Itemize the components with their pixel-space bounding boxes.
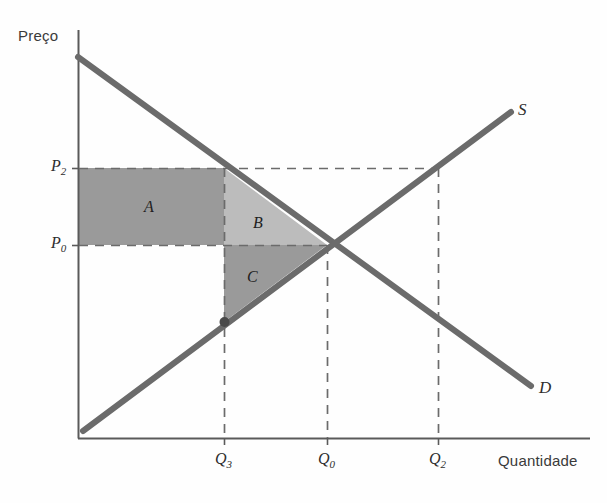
x-axis-title: Quantidade: [498, 452, 578, 469]
chart-canvas: [0, 0, 607, 503]
x-tick-label-q3-base: Q: [215, 450, 227, 467]
region-c-shape: [224, 245, 327, 322]
region-a-label: A: [144, 198, 154, 216]
x-tick-label-q0: Q0: [318, 450, 335, 470]
y-tick-label-p0: P0: [51, 234, 66, 254]
demand-curve-label: D: [539, 378, 551, 398]
region-b-label: B: [253, 214, 263, 232]
x-tick-label-q3-sub: 3: [227, 458, 233, 470]
y-tick-label-p0-sub: 0: [61, 242, 67, 254]
x-tick-label-q2-base: Q: [429, 450, 441, 467]
y-tick-label-p2-base: P: [51, 157, 61, 174]
y-tick-label-p0-base: P: [51, 234, 61, 251]
supply-curve-label: S: [518, 100, 527, 120]
y-tick-label-p2-sub: 2: [61, 165, 67, 177]
economics-supply-demand-figure: Preço Quantidade P2 P0 Q3 Q0 Q2 S D A B …: [0, 0, 607, 503]
x-tick-label-q3: Q3: [215, 450, 232, 470]
supply-point-q3-marker: [220, 317, 230, 327]
region-b-shape: [224, 168, 327, 245]
x-tick-label-q0-sub: 0: [330, 458, 336, 470]
y-tick-label-p2: P2: [51, 157, 66, 177]
supply-curve: [83, 112, 511, 431]
x-tick-label-q0-base: Q: [318, 450, 330, 467]
x-tick-label-q2: Q2: [429, 450, 446, 470]
x-tick-label-q2-sub: 2: [441, 458, 447, 470]
y-axis-title: Preço: [18, 27, 58, 44]
region-c-label: C: [247, 268, 258, 286]
